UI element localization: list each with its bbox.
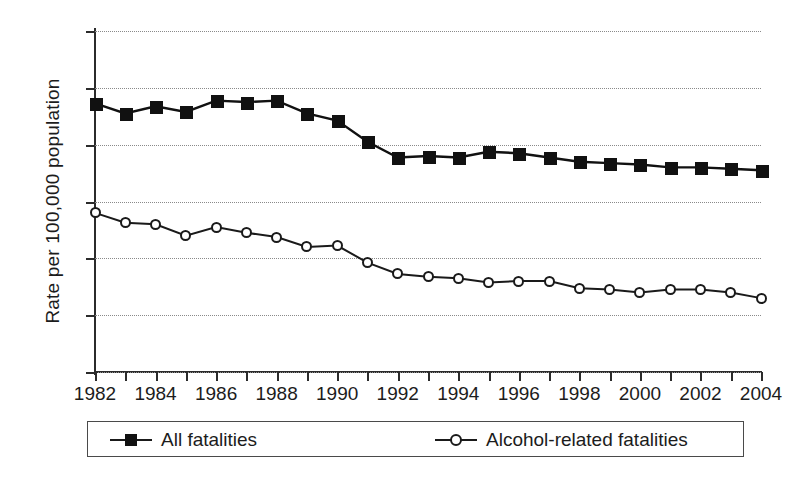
x-tick	[549, 372, 551, 381]
x-tick	[519, 372, 521, 381]
data-point	[544, 276, 555, 287]
x-tick	[458, 372, 460, 381]
data-point	[574, 283, 585, 294]
x-tick-label: 1998	[549, 383, 609, 405]
data-point	[604, 158, 617, 171]
data-point	[544, 152, 557, 165]
data-point	[301, 241, 312, 252]
data-point	[271, 95, 284, 108]
x-tick	[610, 372, 612, 381]
series-markers	[95, 31, 761, 372]
data-point	[453, 152, 466, 165]
x-tick	[670, 372, 672, 381]
data-point	[211, 95, 224, 108]
x-tick	[640, 372, 642, 381]
x-tick	[246, 372, 248, 381]
x-tick	[156, 372, 158, 381]
legend-item-alcohol-related-fatalities: Alcohol-related fatalities	[435, 422, 688, 458]
x-tick	[367, 372, 369, 381]
y-axis-title: Rate per 100,000 population	[42, 36, 64, 366]
chart-legend: All fatalities Alcohol-related fatalitie…	[87, 421, 744, 457]
data-point	[483, 277, 494, 288]
y-tick	[86, 145, 95, 147]
x-tick	[337, 372, 339, 381]
x-tick-label: 2004	[731, 383, 787, 405]
x-tick	[95, 372, 97, 381]
data-point	[665, 284, 676, 295]
legend-item-all-fatalities: All fatalities	[110, 422, 257, 458]
x-tick-label: 1994	[428, 383, 488, 405]
x-tick-label: 2000	[610, 383, 670, 405]
data-point	[150, 101, 163, 114]
data-point	[120, 108, 133, 121]
y-tick	[86, 372, 95, 374]
data-point	[362, 257, 373, 268]
x-tick	[428, 372, 430, 381]
data-point	[392, 152, 405, 165]
data-point	[392, 268, 403, 279]
data-point	[453, 273, 464, 284]
x-tick	[186, 372, 188, 381]
data-point	[271, 232, 282, 243]
x-tick	[761, 372, 763, 381]
x-tick-label: 1990	[307, 383, 367, 405]
data-point	[665, 162, 678, 175]
y-tick	[86, 315, 95, 317]
y-tick	[86, 202, 95, 204]
x-tick-label: 1982	[65, 383, 125, 405]
data-point	[695, 284, 706, 295]
x-tick	[277, 372, 279, 381]
x-tick	[216, 372, 218, 381]
data-point	[423, 151, 436, 164]
data-point	[332, 240, 343, 251]
x-tick-label: 2002	[670, 383, 730, 405]
y-tick	[86, 258, 95, 260]
data-point	[362, 136, 375, 149]
data-point	[241, 227, 252, 238]
legend-label-all-fatalities: All fatalities	[161, 429, 257, 451]
data-point	[513, 276, 524, 287]
x-tick	[489, 372, 491, 381]
legend-label-alcohol-related-fatalities: Alcohol-related fatalities	[486, 429, 688, 451]
filled-square-marker-icon	[110, 433, 152, 447]
data-point	[180, 230, 191, 241]
data-point	[756, 165, 769, 178]
x-tick-label: 1992	[368, 383, 428, 405]
data-point	[90, 207, 101, 218]
data-point	[725, 287, 736, 298]
data-point	[211, 222, 222, 233]
data-point	[423, 271, 434, 282]
x-tick	[125, 372, 127, 381]
data-point	[120, 217, 131, 228]
data-point	[180, 106, 193, 119]
data-point	[483, 146, 496, 159]
x-tick	[398, 372, 400, 381]
data-point	[634, 287, 645, 298]
data-point	[574, 156, 587, 169]
data-point	[241, 97, 254, 110]
data-point	[634, 159, 647, 172]
data-point	[604, 284, 615, 295]
data-point	[695, 162, 708, 175]
data-point	[301, 108, 314, 121]
x-tick-label: 1988	[247, 383, 307, 405]
data-point	[150, 219, 161, 230]
x-tick	[307, 372, 309, 381]
x-tick-label: 1996	[489, 383, 549, 405]
x-tick-label: 1984	[126, 383, 186, 405]
data-point	[725, 163, 738, 176]
y-tick	[86, 31, 95, 33]
x-tick-label: 1986	[186, 383, 246, 405]
data-point	[332, 115, 345, 128]
open-circle-marker-icon	[435, 433, 477, 447]
plot-area: 04812162024 1982198419861988199019921994…	[95, 31, 761, 372]
data-point	[513, 148, 526, 161]
y-tick	[86, 88, 95, 90]
x-tick	[731, 372, 733, 381]
x-tick	[700, 372, 702, 381]
data-point	[756, 293, 767, 304]
x-tick	[579, 372, 581, 381]
data-point	[90, 98, 103, 111]
